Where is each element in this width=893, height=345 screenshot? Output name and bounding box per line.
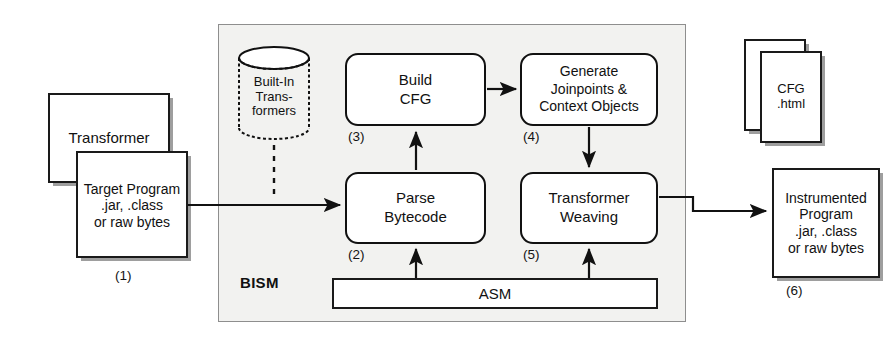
diagram-canvas: BISM Transformer Target Program .jar, .c… [0,0,893,345]
instrumented-program-line3: .jar, .class [795,223,857,240]
build-cfg-line2: CFG [400,90,432,109]
builtin-transformers-text: Built-In Trans- formers [236,75,312,119]
transformer-weaving-line2: Weaving [560,208,618,227]
target-program-line1: Target Program [84,181,180,198]
instrumented-program-line4: or raw bytes [788,240,864,257]
asm-label: ASM [479,285,512,303]
transformer-weaving-step-number: (5) [523,247,540,262]
cfg-html-doc-front-line2: .html [777,96,805,111]
cfg-html-doc-front: CFG .html [760,51,822,143]
target-program-line3: or raw bytes [94,214,170,231]
target-program-box: Target Program .jar, .class or raw bytes [76,151,188,258]
parse-bytecode-box: Parse Bytecode [345,172,486,244]
transformer-label: Transformer [68,129,149,147]
parse-bytecode-step-number: (2) [348,247,365,262]
bism-container-label: BISM [240,274,279,291]
builtin-transformers-line3: formers [236,104,312,119]
parse-bytecode-line2: Bytecode [384,208,447,227]
build-cfg-step-number: (3) [348,129,365,144]
build-cfg-box: Build CFG [345,53,486,126]
instrumented-program-box: Instrumented Program .jar, .class or raw… [772,168,880,278]
parse-bytecode-line1: Parse [396,189,435,208]
instrumented-program-step-number: (6) [786,283,803,298]
builtin-transformers-line1: Built-In [236,75,312,90]
asm-box: ASM [332,278,658,309]
instrumented-program-line1: Instrumented [785,190,867,207]
cfg-html-doc-front-line1: CFG [777,81,804,96]
builtin-transformers-line2: Trans- [236,90,312,105]
builtin-transformers-cylinder: Built-In Trans- formers [236,44,312,142]
instrumented-program-line2: Program [799,206,853,223]
generate-joinpoints-step-number: (4) [523,129,540,144]
generate-joinpoints-box: Generate Joinpoints & Context Objects [520,53,658,126]
transformer-weaving-line1: Transformer [548,189,629,208]
transformer-weaving-box: Transformer Weaving [520,172,658,244]
generate-joinpoints-line1: Generate [560,63,618,81]
generate-joinpoints-line3: Context Objects [539,98,639,116]
build-cfg-line1: Build [399,71,432,90]
generate-joinpoints-line2: Joinpoints & [551,81,627,99]
target-program-line2: .jar, .class [101,197,163,214]
target-program-step-number: (1) [115,268,132,283]
